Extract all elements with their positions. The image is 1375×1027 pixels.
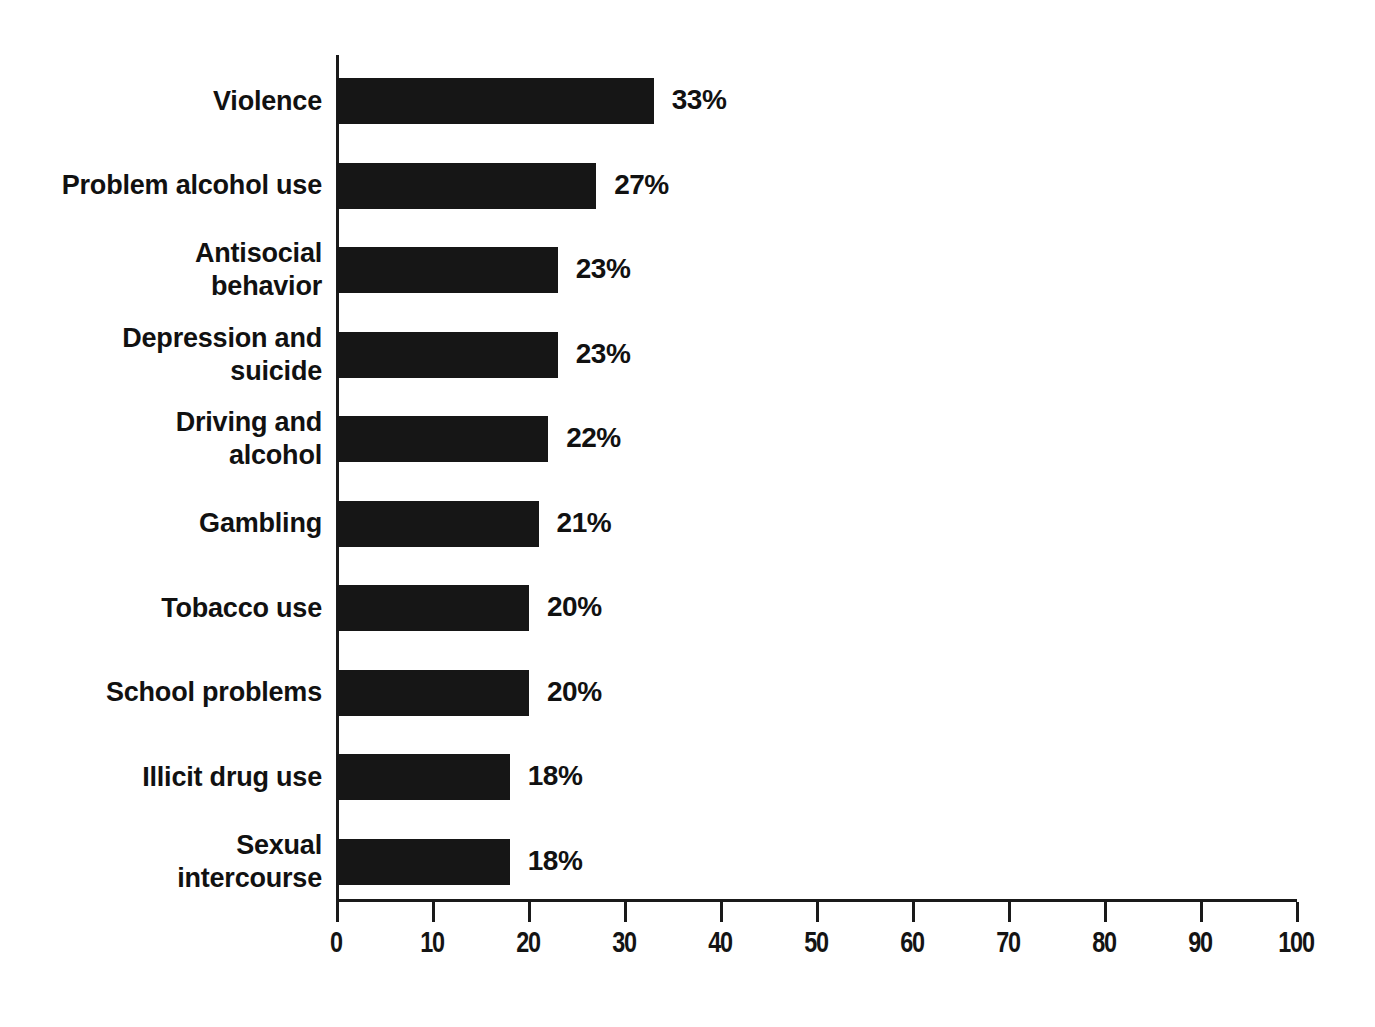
bar-row[interactable]: Sexual intercourse18%: [0, 839, 1375, 885]
category-label: Depression and suicide: [22, 322, 322, 388]
bar-row[interactable]: Depression and suicide23%: [0, 332, 1375, 378]
x-axis-tick-mark: [528, 902, 531, 922]
bar-row[interactable]: Illicit drug use18%: [0, 754, 1375, 800]
x-axis-tick-mark: [336, 902, 339, 922]
x-axis-tick-label: 50: [785, 925, 847, 959]
x-axis-tick-mark: [816, 902, 819, 922]
x-axis-tick-label: 40: [689, 925, 751, 959]
category-label: School problems: [22, 676, 322, 709]
bar-row[interactable]: Problem alcohol use27%: [0, 163, 1375, 209]
bar-row[interactable]: School problems20%: [0, 670, 1375, 716]
bar[interactable]: [337, 670, 529, 716]
bar-row[interactable]: Violence33%: [0, 78, 1375, 124]
bar-value-label: 23%: [576, 253, 631, 285]
bar-value-label: 22%: [566, 422, 621, 454]
plot-area: 0102030405060708090100 Violence33%Proble…: [0, 0, 1375, 1027]
category-label: Tobacco use: [22, 592, 322, 625]
x-axis-tick-label: 90: [1169, 925, 1231, 959]
bar[interactable]: [337, 754, 510, 800]
x-axis-tick-label: 0: [305, 925, 367, 959]
bar[interactable]: [337, 332, 558, 378]
bar[interactable]: [337, 416, 548, 462]
x-axis-tick-label: 20: [497, 925, 559, 959]
bar-value-label: 23%: [576, 338, 631, 370]
x-axis-tick-label: 60: [881, 925, 943, 959]
x-axis-tick-label: 100: [1265, 925, 1327, 959]
bar[interactable]: [337, 585, 529, 631]
bar-value-label: 18%: [528, 845, 583, 877]
x-axis-tick-mark: [1296, 902, 1299, 922]
x-axis-tick-label: 80: [1073, 925, 1135, 959]
bar-value-label: 27%: [614, 169, 669, 201]
bar-row[interactable]: Antisocial behavior23%: [0, 247, 1375, 293]
x-axis-tick-mark: [432, 902, 435, 922]
bar[interactable]: [337, 501, 539, 547]
bar[interactable]: [337, 839, 510, 885]
bar-chart: 0102030405060708090100 Violence33%Proble…: [0, 0, 1375, 1027]
bar-value-label: 20%: [547, 591, 602, 623]
bar-value-label: 21%: [557, 507, 612, 539]
bar-value-label: 33%: [672, 84, 727, 116]
x-axis-tick-mark: [912, 902, 915, 922]
category-label: Problem alcohol use: [22, 169, 322, 202]
x-axis-tick-mark: [720, 902, 723, 922]
bar[interactable]: [337, 78, 654, 124]
bar[interactable]: [337, 247, 558, 293]
bar-value-label: 20%: [547, 676, 602, 708]
x-axis-tick-label: 70: [977, 925, 1039, 959]
bar[interactable]: [337, 163, 596, 209]
x-axis-tick-label: 30: [593, 925, 655, 959]
bar-row[interactable]: Tobacco use20%: [0, 585, 1375, 631]
category-label: Antisocial behavior: [22, 237, 322, 303]
category-label: Illicit drug use: [22, 761, 322, 794]
category-label: Gambling: [22, 507, 322, 540]
x-axis-tick-mark: [624, 902, 627, 922]
x-axis-tick-mark: [1104, 902, 1107, 922]
bar-row[interactable]: Gambling21%: [0, 501, 1375, 547]
category-label: Sexual intercourse: [22, 829, 322, 895]
category-label: Violence: [22, 85, 322, 118]
x-axis-tick-label: 10: [401, 925, 463, 959]
bar-value-label: 18%: [528, 760, 583, 792]
x-axis-tick-mark: [1008, 902, 1011, 922]
bar-row[interactable]: Driving and alcohol22%: [0, 416, 1375, 462]
x-axis-tick-mark: [1200, 902, 1203, 922]
category-label: Driving and alcohol: [22, 406, 322, 472]
